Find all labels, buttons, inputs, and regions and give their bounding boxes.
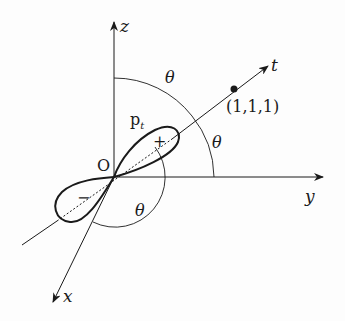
y-axis-label: y	[305, 188, 315, 205]
angle-arc-t-y	[192, 116, 214, 177]
t-axis-label: t	[271, 57, 278, 74]
orbital-diagram: z y x t O (1,1,1) pt + − θ θ θ	[0, 0, 345, 321]
angle-arc-z-t	[114, 78, 192, 116]
point-label: (1,1,1)	[226, 99, 279, 115]
positive-lobe	[114, 127, 179, 177]
x-axis-label: x	[63, 288, 73, 305]
point-111	[231, 86, 238, 93]
diagram-canvas	[0, 0, 345, 321]
orbital-label-subscript: t	[140, 120, 144, 131]
origin-label: O	[97, 158, 110, 174]
t-axis-back	[22, 221, 57, 245]
angle-label-z-t: θ	[165, 70, 175, 86]
angle-label-t-y: θ	[212, 135, 222, 151]
negative-sign: −	[77, 190, 90, 206]
positive-sign: +	[153, 134, 166, 150]
z-axis-label: z	[120, 18, 129, 35]
angle-label-x-t: θ	[135, 203, 145, 219]
orbital-label: pt	[130, 112, 144, 131]
orbital-label-main: p	[130, 110, 140, 129]
